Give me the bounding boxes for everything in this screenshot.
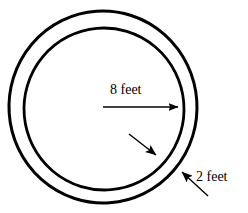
geometry-figure: 8 feet 2 feet [0, 0, 248, 213]
thickness-arrow-upper [129, 134, 156, 155]
annulus-diagram-svg: 8 feet 2 feet [0, 0, 248, 213]
inner-circle [17, 21, 191, 196]
thickness-label: 2 feet [196, 169, 228, 184]
radius-label: 8 feet [110, 82, 142, 97]
